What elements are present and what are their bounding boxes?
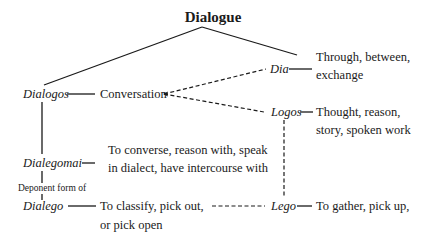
meaning-logos-line1: Thought, reason, bbox=[316, 105, 400, 119]
title-to-dialogos-line bbox=[44, 27, 202, 85]
meaning-dialego-line2: or pick open bbox=[100, 218, 163, 232]
term-logos: Logos bbox=[270, 105, 302, 119]
term-dialego: Dialego bbox=[22, 199, 63, 213]
meaning-dialegomai-line2: in dialect, have intercourse with bbox=[108, 161, 269, 175]
meaning-dialegomai-line1: To converse, reason with, speak bbox=[108, 143, 268, 157]
meaning-lego-line1: To gather, pick up, bbox=[316, 199, 409, 213]
term-lego: Lego bbox=[270, 199, 296, 213]
meaning-dialego-line1: To classify, pick out, bbox=[100, 199, 204, 213]
meaning-dialogos: Conversation bbox=[100, 87, 167, 101]
meaning-dia-line1: Through, between, bbox=[316, 50, 410, 64]
conversation-to-dia-dashed bbox=[164, 69, 266, 94]
diagram-title: Dialogue bbox=[185, 9, 242, 25]
title-to-dia-line bbox=[202, 27, 297, 55]
dialogue-etymology-diagram: Dialogue Dialogos Conversation Dia Throu… bbox=[0, 0, 426, 243]
meaning-logos-line2: story, spoken work bbox=[316, 123, 411, 137]
term-dialogos: Dialogos bbox=[22, 87, 69, 101]
meaning-dia-line2: exchange bbox=[316, 68, 364, 82]
deponent-label: Deponent form of bbox=[18, 183, 87, 193]
term-dia: Dia bbox=[269, 62, 289, 76]
conversation-to-logos-dashed bbox=[164, 94, 264, 112]
term-dialegomai: Dialegomai bbox=[22, 156, 83, 170]
